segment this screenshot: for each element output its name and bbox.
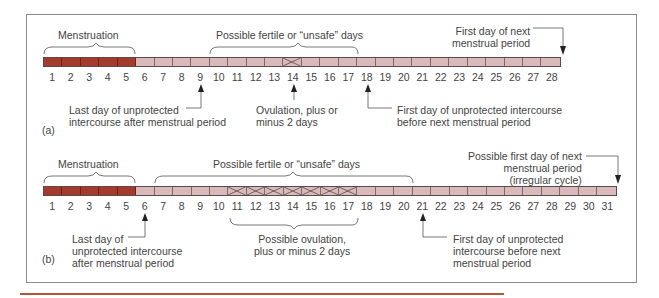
arrow-next-period-b <box>586 156 618 179</box>
arrow-last-day-b <box>128 215 145 237</box>
menstruation-bracket-a <box>44 43 135 54</box>
fertile-bracket-b <box>155 172 413 183</box>
ovulation-bracket-b <box>230 218 358 229</box>
arrow-last-day-a <box>186 86 201 108</box>
accent-rule <box>20 293 504 295</box>
fertile-bracket-a <box>210 43 358 54</box>
menstruation-bracket-b <box>44 172 135 183</box>
brackets-and-arrows <box>0 0 659 298</box>
arrow-next-period-a <box>533 28 563 50</box>
